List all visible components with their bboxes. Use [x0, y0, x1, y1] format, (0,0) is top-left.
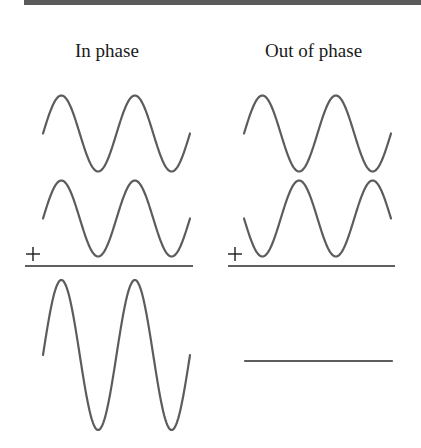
in-phase-wave-1: [43, 96, 190, 172]
out-of-phase-wave-2: [244, 181, 391, 257]
constructive-sum-wave: [43, 280, 190, 430]
in-phase-wave-2: [43, 181, 190, 257]
plus-sign-icon: [26, 247, 40, 261]
in-phase-column: [25, 96, 193, 431]
plus-sign-icon: [228, 247, 242, 261]
out-of-phase-wave-1: [244, 96, 391, 172]
out-of-phase-column: [228, 96, 395, 362]
wave-interference-diagram: [0, 0, 421, 448]
